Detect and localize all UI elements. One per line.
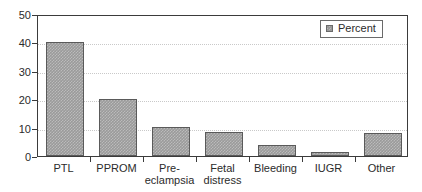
bar [311, 152, 349, 156]
bar [205, 132, 243, 156]
x-tick-mark [249, 157, 250, 162]
x-tick-mark [355, 157, 356, 162]
x-axis-label: IUGR [315, 162, 343, 174]
legend-swatch-percent [326, 25, 333, 32]
y-tick-label: 40 [0, 38, 31, 49]
y-axis: 01020304050 [0, 0, 31, 192]
y-tick-label: 50 [0, 10, 31, 21]
x-axis-label: Bleeding [254, 162, 297, 174]
y-tick-label: 10 [0, 123, 31, 134]
bar [364, 133, 402, 156]
legend-label-percent: Percent [338, 23, 376, 34]
y-tick-mark [32, 157, 37, 158]
y-tick-label: 20 [0, 95, 31, 106]
x-tick-mark [302, 157, 303, 162]
x-axis-label: PTL [53, 162, 73, 174]
bar [99, 99, 137, 156]
x-tick-mark [90, 157, 91, 162]
x-axis-label: Fetal distress [204, 162, 242, 186]
y-tick-label: 30 [0, 66, 31, 77]
y-tick-label: 0 [0, 152, 31, 163]
x-axis-label: Other [368, 162, 396, 174]
x-axis-label: Pre- eclampsia [145, 162, 195, 186]
x-axis-label: PPROM [96, 162, 136, 174]
bar-chart: 01020304050 PTLPPROMPre- eclampsiaFetal … [0, 0, 422, 192]
bar [152, 127, 190, 156]
bar [46, 42, 84, 156]
bar [258, 145, 296, 156]
x-tick-mark [196, 157, 197, 162]
chart-legend: Percent [320, 20, 383, 38]
